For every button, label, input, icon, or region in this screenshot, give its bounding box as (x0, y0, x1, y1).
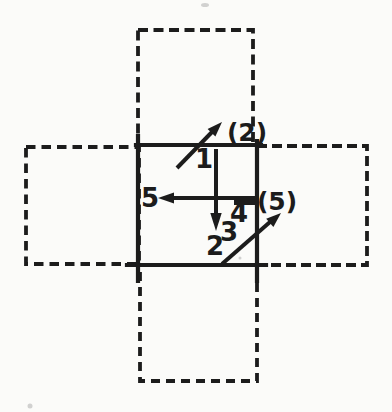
scan-speck (239, 257, 242, 260)
arrow-5-head-icon (158, 193, 174, 204)
image-cell-bottom (140, 265, 257, 381)
periodic-cells-figure: 1 5 4 3 2 (2) (5) (0, 0, 392, 412)
label-particle-1: 1 (195, 144, 213, 174)
image-cells (26, 30, 367, 381)
label-image-5: (5) (257, 187, 297, 216)
label-particle-2: 2 (206, 231, 224, 261)
scan-specks (28, 3, 242, 409)
scan-speck (28, 404, 33, 409)
image-cell-left (26, 147, 139, 264)
scanned-diagram-page: 1 5 4 3 2 (2) (5) (0, 0, 392, 412)
particle-labels: 1 5 4 3 2 (2) (5) (141, 118, 297, 261)
scan-speck (201, 3, 209, 7)
label-particle-5: 5 (141, 183, 159, 213)
label-image-2: (2) (227, 118, 267, 147)
